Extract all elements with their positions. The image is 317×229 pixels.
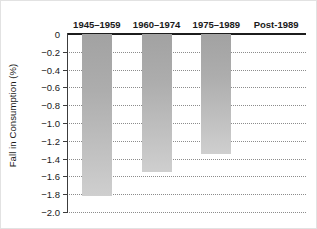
y-axis-tick-label: −0.8 [41, 100, 60, 111]
gridline [67, 212, 306, 213]
y-axis-tick-mark [63, 176, 68, 177]
y-axis-tick-label: −1.0 [41, 118, 60, 129]
bar [142, 34, 172, 172]
y-axis-tick-mark [63, 194, 68, 195]
y-axis-tick-label: −1.4 [41, 153, 60, 164]
y-axis-tick-label: −0.6 [41, 82, 60, 93]
y-axis-tick-label: −0.4 [41, 64, 60, 75]
y-axis-tick-mark [63, 70, 68, 71]
category-label: 1945–1959 [73, 19, 121, 30]
y-axis-tick-label: −0.2 [41, 46, 60, 57]
category-label: 1975–1989 [193, 19, 241, 30]
category-label: Post-1989 [254, 19, 299, 30]
y-axis-title: Fall in Consumption (%) [1, 1, 23, 229]
bar [82, 34, 112, 196]
y-axis-tick-label: 0 [55, 29, 60, 40]
y-axis-tick-label: −2.0 [41, 207, 60, 218]
y-axis-tick-label: −1.8 [41, 189, 60, 200]
y-axis-tick-mark [63, 159, 68, 160]
y-axis-tick-mark [63, 87, 68, 88]
y-axis-tick-mark [63, 105, 68, 106]
y-axis-tick-mark [63, 141, 68, 142]
y-axis-tick-mark [63, 123, 68, 124]
y-axis-tick-mark [63, 212, 68, 213]
y-axis-tick-label: −1.6 [41, 171, 60, 182]
y-axis-tick-mark [63, 52, 68, 53]
bar [201, 34, 231, 154]
chart-figure: Fall in Consumption (%) 0−0.2−0.4−0.6−0.… [0, 0, 317, 229]
y-axis-tick-label: −1.2 [41, 135, 60, 146]
plot-area: 0−0.2−0.4−0.6−0.8−1.0−1.2−1.4−1.6−1.8−2.… [67, 34, 306, 212]
category-label: 1960–1974 [133, 19, 181, 30]
